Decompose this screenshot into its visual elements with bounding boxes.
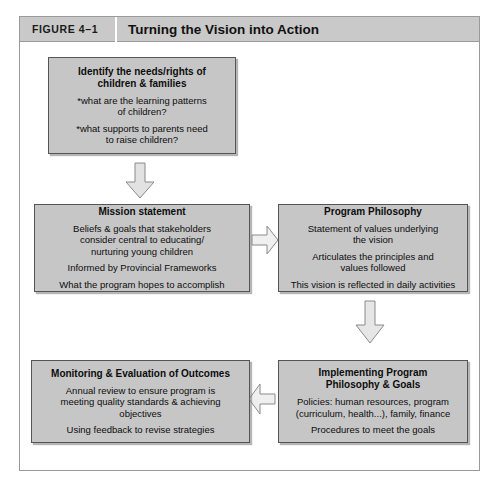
node-title: Mission statement: [98, 206, 185, 218]
diagram-canvas: Identify the needs/rights of children & …: [20, 42, 479, 470]
arrow-down-philosophy-to-implementing: [354, 300, 386, 345]
node-monitoring-evaluation: Monitoring & Evaluation of Outcomes Annu…: [31, 360, 250, 443]
arrow-right-mission-to-philosophy: [251, 224, 279, 256]
node-line: Articulates the principles and values fo…: [312, 251, 433, 274]
node-title: Implementing Program Philosophy & Goals: [319, 367, 428, 391]
node-line: What the program hopes to accomplish: [59, 279, 224, 291]
node-program-philosophy: Program Philosophy Statement of values u…: [278, 204, 468, 292]
node-line: Using feedback to revise strategies: [67, 424, 215, 436]
arrow-left-implementing-to-monitoring: [248, 382, 276, 416]
node-line: Annual review to ensure program is meeti…: [60, 385, 220, 420]
node-line: Statement of values underlying the visio…: [308, 223, 438, 246]
node-mission-statement: Mission statement Beliefs & goals that s…: [34, 204, 250, 292]
node-line: Informed by Provincial Frameworks: [68, 262, 217, 274]
figure-frame: FIGURE 4–1 Turning the Vision into Actio…: [19, 16, 480, 471]
node-title: Identify the needs/rights of children & …: [78, 66, 206, 90]
figure-header: FIGURE 4–1 Turning the Vision into Actio…: [20, 17, 479, 42]
node-line: This vision is reflected in daily activi…: [291, 279, 456, 291]
node-line: *what are the learning patterns of child…: [77, 95, 206, 118]
arrow-down-identify-to-mission: [124, 162, 156, 200]
figure-title: Turning the Vision into Action: [117, 22, 319, 37]
node-line: Policies: human resources, program (curr…: [296, 396, 451, 419]
figure-number-label: FIGURE 4–1: [20, 23, 115, 35]
node-line: *what supports to parents need to raise …: [76, 123, 208, 146]
node-title: Program Philosophy: [324, 206, 422, 218]
node-title: Monitoring & Evaluation of Outcomes: [51, 368, 230, 380]
node-line: Procedures to meet the goals: [311, 424, 435, 436]
node-line: Beliefs & goals that stakeholders consid…: [73, 223, 211, 258]
node-identify-needs: Identify the needs/rights of children & …: [48, 57, 236, 154]
node-implementing-program: Implementing Program Philosophy & Goals …: [278, 360, 468, 443]
